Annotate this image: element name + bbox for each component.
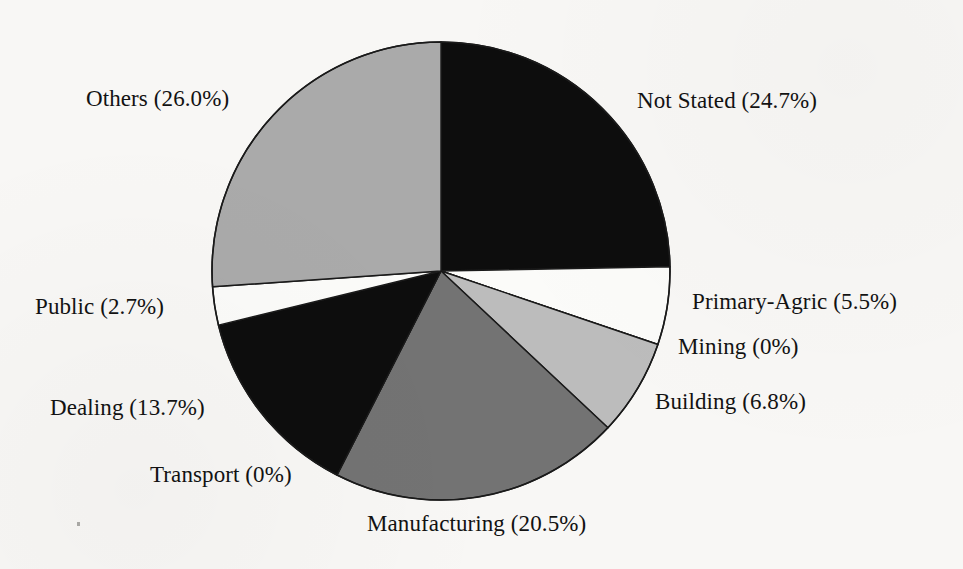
pie-slice-others[interactable] bbox=[212, 42, 441, 287]
scan-artifact-speck bbox=[77, 522, 80, 526]
slice-label-public: Public (2.7%) bbox=[35, 294, 164, 320]
slice-label-manufacturing: Manufacturing (20.5%) bbox=[367, 511, 586, 537]
slice-label-others: Others (26.0%) bbox=[86, 86, 229, 112]
slice-label-building: Building (6.8%) bbox=[655, 389, 806, 415]
pie-slice-not-stated[interactable] bbox=[441, 42, 670, 271]
slice-label-not-stated: Not Stated (24.7%) bbox=[637, 88, 817, 114]
slice-label-mining: Mining (0%) bbox=[678, 334, 799, 360]
slice-label-dealing: Dealing (13.7%) bbox=[50, 395, 205, 421]
slice-label-primary-agric: Primary-Agric (5.5%) bbox=[692, 289, 897, 315]
slice-label-transport: Transport (0%) bbox=[150, 462, 292, 488]
pie-chart-figure: Not Stated (24.7%) Primary-Agric (5.5%) … bbox=[0, 0, 963, 569]
